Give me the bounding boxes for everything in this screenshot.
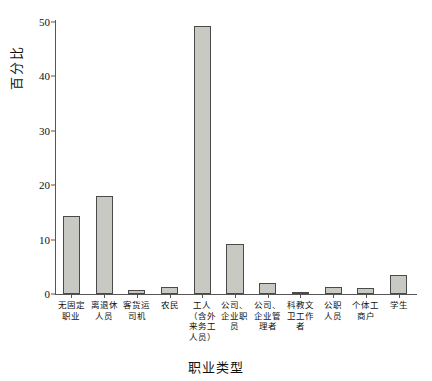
x-tick-label-line: 无固定 [55, 300, 88, 311]
x-tick-label-line: 人员 [88, 311, 121, 322]
bar-slot [63, 22, 80, 294]
x-tick-label-line: 学生 [382, 300, 415, 311]
x-tick-label-line: 客货运 [120, 300, 153, 311]
x-tick-label-line: 公司、 [251, 300, 284, 311]
x-tick-label: 离退休人员 [88, 300, 121, 321]
bar-slot [96, 22, 113, 294]
x-tick-label-line: 员 [219, 321, 252, 332]
bar [63, 216, 80, 294]
x-tick-label-line: 科教文 [284, 300, 317, 311]
x-tick-label-line: 来务工 [186, 321, 219, 332]
x-tick-label-line: 公司、 [219, 300, 252, 311]
x-tick-label: 公司、企业职员 [219, 300, 252, 332]
bar-chart: 百分比 01020304050 无固定职业离退休人员客货运司机农民工人（含外来务… [0, 0, 432, 381]
x-tick-mark [366, 294, 367, 298]
x-tick-label-line: 卫工作 [284, 311, 317, 322]
plot-area: 01020304050 [55, 22, 415, 294]
x-tick-label: 学生 [382, 300, 415, 311]
x-tick-label: 科教文卫工作者 [284, 300, 317, 332]
x-axis-line [55, 294, 417, 295]
x-tick-label: 农民 [153, 300, 186, 311]
x-tick-label-line: 企业管 [251, 311, 284, 322]
bar-slot [292, 22, 309, 294]
bar-slot [194, 22, 211, 294]
x-axis-category-labels: 无固定职业离退休人员客货运司机农民工人（含外来务工人员）公司、企业职员公司、企业… [55, 300, 417, 360]
x-tick-label-line: 司机 [120, 311, 153, 322]
x-tick-mark [235, 294, 236, 298]
x-tick-mark [399, 294, 400, 298]
x-tick-label: 无固定职业 [55, 300, 88, 321]
x-tick-mark [202, 294, 203, 298]
x-tick-label: 客货运司机 [120, 300, 153, 321]
x-tick-label: 工人（含外来务工人员） [186, 300, 219, 342]
bar-series [55, 22, 415, 294]
bar-slot [161, 22, 178, 294]
bar [226, 244, 243, 294]
bar-slot [390, 22, 407, 294]
x-tick-label-line: 职业 [55, 311, 88, 322]
bar-slot [226, 22, 243, 294]
x-tick-label-line: 者 [284, 321, 317, 332]
bar [96, 196, 113, 294]
bar-slot [128, 22, 145, 294]
x-tick-label-line: 公职 [317, 300, 350, 311]
bar-slot [357, 22, 374, 294]
x-tick-label-line: 个体工 [350, 300, 383, 311]
x-tick-label-line: 企业职 [219, 311, 252, 322]
x-tick-label-line: 商户 [350, 311, 383, 322]
x-tick-label: 个体工商户 [350, 300, 383, 321]
x-tick-label-line: （含外 [186, 311, 219, 322]
x-tick-mark [170, 294, 171, 298]
x-tick-label-line: 工人 [186, 300, 219, 311]
x-tick-label: 公职人员 [317, 300, 350, 321]
y-axis-title: 百分比 [6, 22, 25, 112]
x-tick-label-line: 理者 [251, 321, 284, 332]
bar [390, 275, 407, 294]
x-tick-mark [137, 294, 138, 298]
x-tick-label-line: 人员 [317, 311, 350, 322]
bar [259, 283, 276, 294]
x-tick-mark [104, 294, 105, 298]
x-tick-mark [71, 294, 72, 298]
x-axis-title: 职业类型 [0, 357, 432, 376]
x-tick-label-line: 人员） [186, 332, 219, 343]
x-tick-label-line: 离退休 [88, 300, 121, 311]
x-tick-label-line: 农民 [153, 300, 186, 311]
bar-slot [259, 22, 276, 294]
x-tick-mark [300, 294, 301, 298]
x-tick-mark [333, 294, 334, 298]
x-tick-label: 公司、企业管理者 [251, 300, 284, 332]
x-tick-mark [268, 294, 269, 298]
bar-slot [325, 22, 342, 294]
bar [194, 26, 211, 294]
